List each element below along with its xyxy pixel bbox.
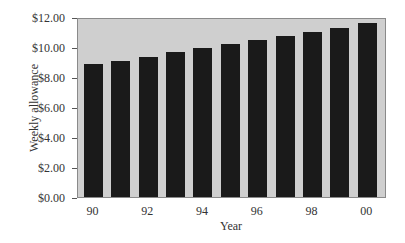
bar-95 [221, 44, 240, 197]
y-tick-label: $0.00 [38, 191, 65, 206]
y-axis-title: Weekly allowance [27, 64, 42, 152]
x-tick-label: 00 [360, 204, 372, 219]
plot-area [77, 18, 386, 198]
bar-98 [303, 32, 322, 197]
y-tick-label: $12.00 [32, 11, 65, 26]
bar-97 [276, 36, 295, 197]
x-tick-label: 90 [87, 204, 99, 219]
y-tick-mark [72, 108, 77, 109]
y-tick-label: $10.00 [32, 41, 65, 56]
y-tick-mark [72, 78, 77, 79]
x-axis-title: Year [220, 219, 242, 234]
x-tick-label: 98 [305, 204, 317, 219]
y-tick-mark [72, 138, 77, 139]
x-tick-label: 96 [251, 204, 263, 219]
y-tick-label: $6.00 [38, 101, 65, 116]
bar-93 [166, 52, 185, 197]
y-tick-mark [72, 48, 77, 49]
bar-91 [111, 61, 130, 197]
bar-92 [139, 57, 158, 197]
y-tick-label: $2.00 [38, 161, 65, 176]
x-tick-label: 94 [196, 204, 208, 219]
bar-96 [248, 40, 267, 197]
bar-99 [330, 28, 349, 197]
y-tick-label: $4.00 [38, 131, 65, 146]
bar-94 [193, 48, 212, 197]
bar-90 [84, 64, 103, 197]
y-tick-label: $8.00 [38, 71, 65, 86]
y-tick-mark [72, 198, 77, 199]
y-tick-mark [72, 18, 77, 19]
y-tick-mark [72, 168, 77, 169]
x-tick-label: 92 [141, 204, 153, 219]
bar-00 [358, 23, 377, 197]
